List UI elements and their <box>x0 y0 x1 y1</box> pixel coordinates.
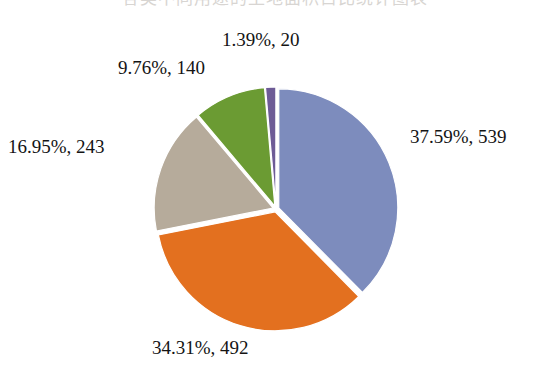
slice-label-purple: 1.39%, 20 <box>222 30 300 50</box>
pie-slices-group <box>154 87 398 331</box>
pie-svg <box>0 0 550 377</box>
slice-label-blue: 37.59%, 539 <box>410 127 507 147</box>
pie-chart-figure: 各类不同用途的土地面积占比统计图表 37.59%, 539 34.31%, 49… <box>0 0 550 377</box>
slice-label-tan: 16.95%, 243 <box>8 137 105 157</box>
slice-label-green: 9.76%, 140 <box>118 58 205 78</box>
slice-label-orange: 34.31%, 492 <box>152 338 249 358</box>
